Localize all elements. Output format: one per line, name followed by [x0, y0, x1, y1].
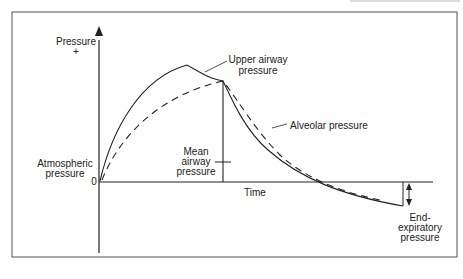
arrow-down-icon: [406, 199, 412, 206]
atmospheric-label-line2: pressure: [34, 169, 96, 179]
upper-airway-curve: [100, 65, 403, 206]
end-expiratory-label-line3: pressure: [390, 233, 450, 243]
alveolar-leader: [272, 124, 287, 128]
y-axis-arrow-icon: [95, 26, 103, 36]
x-axis-label: Time: [244, 188, 266, 198]
arrow-up-icon: [406, 183, 412, 190]
alveolar-label: Alveolar pressure: [290, 121, 368, 131]
upper-airway-label-line2: pressure: [218, 66, 298, 76]
mean-airway-label-line3: pressure: [174, 167, 218, 177]
y-axis-sign: +: [70, 47, 82, 57]
upper-airway-label-line1: Upper airway: [218, 55, 298, 65]
origin-label: 0: [90, 177, 98, 187]
